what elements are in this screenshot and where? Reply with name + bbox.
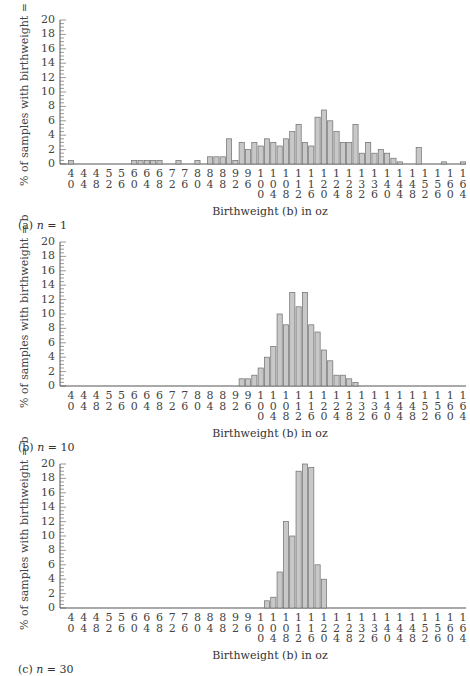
histogram-bar <box>283 139 288 164</box>
x-tick-label: 80 <box>192 613 202 634</box>
x-tick-label: 112 <box>294 391 304 423</box>
x-tick-label: 48 <box>91 391 101 412</box>
histogram-bar <box>309 325 314 386</box>
histogram-bar <box>239 142 244 164</box>
histogram-bar <box>264 139 269 164</box>
x-tick-label: 104 <box>268 613 278 645</box>
x-tick-label: 124 <box>332 169 342 201</box>
x-tick-label: 48 <box>91 613 101 634</box>
histogram-bar <box>334 375 339 386</box>
x-tick-label: 84 <box>205 391 215 412</box>
histogram-bar <box>347 142 352 164</box>
histogram-bar <box>359 153 364 164</box>
histogram-bar <box>195 160 200 164</box>
x-tick-label: 128 <box>344 169 354 201</box>
x-tick-label: 52 <box>104 613 114 634</box>
x-tick-label: 120 <box>319 391 329 423</box>
histogram-bar <box>271 142 276 164</box>
histogram-bar <box>315 117 320 164</box>
x-tick-label: 64 <box>142 169 152 190</box>
x-tick-label: 84 <box>205 613 215 634</box>
x-tick-label: 128 <box>344 613 354 645</box>
histogram-bar <box>233 160 238 164</box>
x-tick-label: 132 <box>357 613 367 645</box>
x-tick-label: 100 <box>256 391 266 423</box>
histogram-bar <box>391 158 396 164</box>
x-tick-label: 164 <box>458 613 468 645</box>
histogram-bar <box>144 160 149 164</box>
x-tick-label: 104 <box>268 169 278 201</box>
histogram-bar <box>296 471 301 608</box>
x-tick-label: 152 <box>420 391 430 423</box>
x-tick-label: 64 <box>142 391 152 412</box>
histogram-bar <box>302 142 307 164</box>
x-tick-label: 92 <box>230 391 240 412</box>
x-tick-label: 112 <box>294 169 304 201</box>
histogram-bar <box>252 375 257 386</box>
histogram-bar <box>132 160 137 164</box>
histogram-bar <box>277 572 282 608</box>
x-tick-label: 100 <box>256 169 266 201</box>
x-tick-label: 164 <box>458 169 468 201</box>
x-tick-label: 116 <box>306 391 316 423</box>
histogram-bar <box>245 379 250 386</box>
x-tick-label: 164 <box>458 391 468 423</box>
histogram-bar <box>245 150 250 164</box>
histogram-bar <box>321 579 326 608</box>
histogram-bar <box>397 162 402 164</box>
x-tick-label: 40 <box>66 169 76 190</box>
histogram-bar <box>226 139 231 164</box>
histogram-bar <box>258 368 263 386</box>
histogram-bar <box>296 307 301 386</box>
x-tick-label: 44 <box>79 391 89 412</box>
histogram-bar <box>264 601 269 608</box>
histogram-bar <box>321 110 326 164</box>
histogram-bar <box>239 379 244 386</box>
x-tick-label: 120 <box>319 613 329 645</box>
x-tick-label: 136 <box>369 391 379 423</box>
x-tick-label: 152 <box>420 169 430 201</box>
x-tick-label: 148 <box>407 391 417 423</box>
histogram-bar <box>252 142 257 164</box>
x-tick-label: 116 <box>306 613 316 645</box>
histogram-bar <box>208 157 213 164</box>
histogram-bar <box>290 536 295 608</box>
x-tick-label: 72 <box>167 169 177 190</box>
x-tick-label: 60 <box>129 613 139 634</box>
x-tick-label: 136 <box>369 169 379 201</box>
histogram-bar <box>366 142 371 164</box>
x-tick-label: 156 <box>433 391 443 423</box>
x-tick-label: 88 <box>218 613 228 634</box>
x-tick-label: 68 <box>155 391 165 412</box>
x-tick-label: 76 <box>180 391 190 412</box>
x-tick-label: 40 <box>66 613 76 634</box>
x-tick-label: 120 <box>319 169 329 201</box>
x-tick-label: 144 <box>395 613 405 645</box>
histogram-bar <box>302 292 307 386</box>
x-tick-label: 84 <box>205 169 215 190</box>
x-axis-title: Birthweight (b) in oz <box>35 205 470 218</box>
x-tick-label: 52 <box>104 169 114 190</box>
x-tick-label: 96 <box>243 613 253 634</box>
x-tick-label: 140 <box>382 169 392 201</box>
histogram-bar <box>460 162 465 164</box>
x-tick-label: 140 <box>382 613 392 645</box>
histogram-bar <box>309 468 314 608</box>
x-axis-title: Birthweight (b) in oz <box>35 649 470 662</box>
x-tick-label: 132 <box>357 169 367 201</box>
histogram-bar <box>271 346 276 386</box>
x-tick-label: 156 <box>433 169 443 201</box>
histogram-bar <box>340 142 345 164</box>
histogram-bar <box>296 124 301 164</box>
histogram-bar <box>283 325 288 386</box>
histogram-bar <box>283 522 288 608</box>
x-tick-label: 124 <box>332 391 342 423</box>
histogram-bar <box>340 375 345 386</box>
histogram-bar <box>321 350 326 386</box>
histogram-bar <box>290 132 295 164</box>
histogram-bar <box>220 157 225 164</box>
x-tick-label: 140 <box>382 391 392 423</box>
histogram-bar <box>290 292 295 386</box>
histogram-bar <box>441 162 446 164</box>
histogram-bar <box>176 160 181 164</box>
